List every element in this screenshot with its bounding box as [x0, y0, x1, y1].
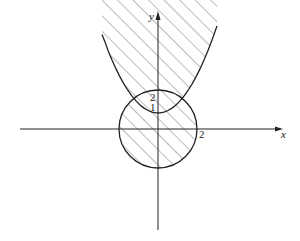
x-tick-2-label: 2	[199, 128, 205, 140]
y-axis-label: y	[148, 10, 154, 22]
x-axis-label: x	[280, 128, 286, 140]
region-diagram: y x 2 1 2	[0, 0, 300, 241]
y-tick-1-label: 1	[150, 101, 156, 113]
shaded-region	[0, 0, 300, 241]
